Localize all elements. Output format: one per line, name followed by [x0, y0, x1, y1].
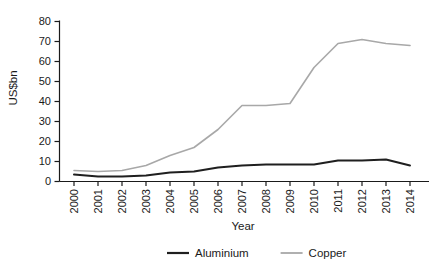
y-tick-label: 70 [39, 35, 51, 47]
y-tick-label: 80 [39, 15, 51, 27]
x-tick-label: 2008 [260, 189, 272, 213]
x-axis-title: Year [231, 220, 254, 232]
x-tick-label: 2000 [68, 189, 80, 213]
aluminium-line [74, 160, 410, 177]
line-chart-figure: 01020304050607080 2000200120022003200420… [0, 0, 437, 271]
y-tick-label: 30 [39, 115, 51, 127]
x-tick-label: 2007 [236, 189, 248, 213]
legend-label-aluminium: Aluminium [195, 247, 249, 259]
axes [60, 21, 430, 182]
x-tick-label: 2013 [380, 189, 392, 213]
x-tick-label: 2005 [188, 189, 200, 213]
x-tick-label: 2001 [92, 189, 104, 213]
x-tick-label: 2009 [284, 189, 296, 213]
x-tick-label: 2004 [164, 189, 176, 213]
legend-label-copper: Copper [309, 247, 347, 259]
y-tick-label: 10 [39, 155, 51, 167]
commodity-trade-line-chart: 01020304050607080 2000200120022003200420… [0, 0, 437, 271]
y-tick-label: 0 [45, 175, 51, 187]
y-axis-title: US$bn [7, 70, 19, 105]
x-tick-label: 2012 [356, 189, 368, 213]
x-tick-label: 2002 [116, 189, 128, 213]
x-tick-label: 2010 [308, 189, 320, 213]
y-tick-label: 20 [39, 135, 51, 147]
legend: AluminiumCopper [167, 247, 346, 259]
x-tick-label: 2014 [404, 189, 416, 213]
x-tick-label: 2006 [212, 189, 224, 213]
y-tick-label: 50 [39, 75, 51, 87]
copper-line [74, 40, 410, 172]
data-series [74, 40, 410, 177]
x-tick-label: 2003 [140, 189, 152, 213]
y-axis-ticks: 01020304050607080 [39, 15, 60, 187]
y-tick-label: 60 [39, 55, 51, 67]
x-tick-label: 2011 [332, 189, 344, 213]
x-axis-ticks: 2000200120022003200420052006200720082009… [68, 182, 416, 214]
y-tick-label: 40 [39, 95, 51, 107]
